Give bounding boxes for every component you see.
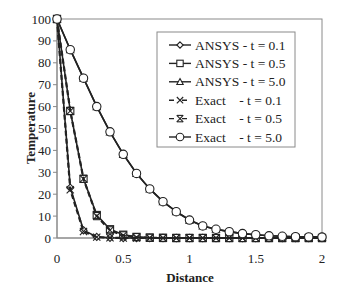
circle-marker	[278, 232, 286, 240]
circle-marker	[132, 169, 140, 177]
legend-label: Exact - t = 0.5	[195, 111, 282, 126]
circle-marker	[238, 229, 246, 237]
y-tick-label: 30	[38, 165, 51, 180]
y-tick-label: 100	[32, 12, 52, 27]
circle-marker	[93, 102, 101, 110]
circle-marker	[185, 216, 193, 224]
circle-marker	[291, 232, 299, 240]
y-tick-label: 0	[45, 231, 52, 246]
y-tick-label: 90	[38, 33, 51, 48]
circle-marker	[53, 15, 61, 23]
circle-marker	[199, 222, 207, 230]
y-tick-label: 60	[38, 99, 51, 114]
legend-label: ANSYS - t = 0.5	[195, 56, 286, 71]
y-tick-label: 20	[38, 187, 51, 202]
circle-marker	[305, 233, 313, 241]
circle-marker	[225, 227, 233, 235]
circle-marker	[318, 233, 326, 241]
y-tick-label: 10	[38, 209, 51, 224]
temperature-distance-chart: 0102030405060708090100 00.511.52 Tempera…	[0, 0, 340, 293]
x-tick-label: 1.5	[248, 251, 264, 266]
circle-marker	[172, 208, 180, 216]
legend-label: Exact - t = 5.0	[195, 130, 282, 145]
x-tick-label: 0.5	[115, 251, 131, 266]
circle-marker	[252, 231, 260, 239]
circle-marker	[176, 133, 184, 141]
circle-marker	[119, 150, 127, 158]
circle-marker	[212, 225, 220, 233]
x-tick-label: 0	[54, 251, 61, 266]
circle-marker	[106, 128, 114, 136]
square-marker	[177, 60, 183, 66]
circle-marker	[265, 232, 273, 240]
legend: ANSYS - t = 0.1ANSYS - t = 0.5ANSYS - t …	[157, 32, 295, 147]
y-tick-label: 40	[38, 143, 51, 158]
y-axis-title: Temperature	[23, 92, 38, 164]
circle-marker	[159, 197, 167, 205]
circle-marker	[66, 45, 74, 53]
x-tick-label: 1	[186, 251, 193, 266]
y-tick-label: 70	[38, 77, 51, 92]
x-tick-label: 2	[319, 251, 326, 266]
legend-label: Exact - t = 0.1	[195, 93, 282, 108]
circle-marker	[79, 74, 87, 82]
y-tick-label: 50	[38, 121, 51, 136]
legend-label: ANSYS - t = 5.0	[195, 74, 286, 89]
legend-label: ANSYS - t = 0.1	[195, 38, 286, 53]
y-tick-label: 80	[38, 55, 51, 70]
circle-marker	[146, 185, 154, 193]
x-axis-title: Distance	[166, 270, 214, 285]
